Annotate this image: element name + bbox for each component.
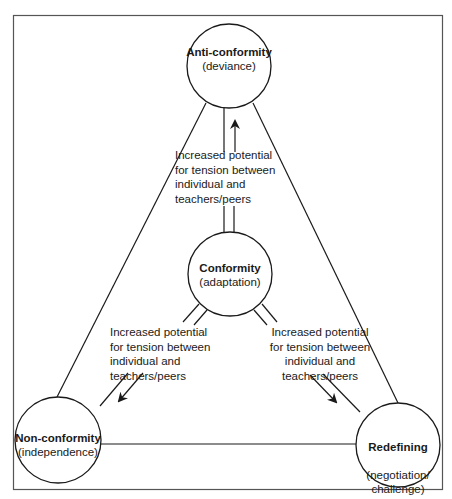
connector-down-left-upper-a [183,304,199,322]
connector-down-left-upper-b [194,310,207,325]
connector-down-right-upper-b [254,310,267,325]
node-redefining: Redefining (negotiation/ challenge) [348,426,448,499]
annotation-down-left: Increased potential for tension between … [110,325,240,383]
node-conformity: Conformity (adaptation) [180,261,280,289]
node-non-conformity: Non-conformity (independence) [8,431,108,459]
node-title: Redefining [348,440,448,454]
diagram-canvas [0,0,452,499]
node-subtitle: (independence) [8,445,108,459]
node-subtitle: (negotiation/ challenge) [348,468,448,496]
node-title: Non-conformity [8,431,108,445]
annotation-up: Increased potential for tension between … [175,148,305,206]
node-anti-conformity: Anti-conformity (deviance) [179,45,279,73]
node-title: Conformity [180,261,280,275]
node-subtitle: (deviance) [179,59,279,73]
node-title: Anti-conformity [179,45,279,59]
node-subtitle: (adaptation) [180,275,280,289]
connector-down-right-upper-a [262,304,277,322]
annotation-down-right: Increased potential for tension between … [255,325,385,383]
